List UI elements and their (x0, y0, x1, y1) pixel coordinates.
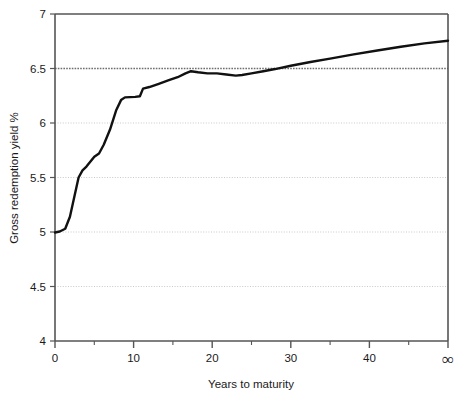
yield-curve-chart: 010203040∞ 44.555.566.57 Years to maturi… (0, 0, 469, 411)
x-tick-label-30: 30 (284, 352, 297, 364)
x-tick-label-0: 0 (52, 352, 58, 364)
y-tick-label-5.5: 5.5 (30, 172, 46, 184)
x-tick-label-20: 20 (206, 352, 219, 364)
y-tick-label-6: 6 (40, 117, 46, 129)
y-tick-label-4.5: 4.5 (30, 281, 46, 293)
chart-background (0, 0, 469, 411)
x-axis-title: Years to maturity (208, 378, 294, 390)
chart-container: 010203040∞ 44.555.566.57 Years to maturi… (0, 0, 469, 411)
y-tick-label-6.5: 6.5 (30, 63, 46, 75)
y-tick-label-7: 7 (40, 8, 46, 20)
x-tick-label-40: 40 (363, 352, 376, 364)
x-tick-label-10: 10 (127, 352, 140, 364)
x-tick-label-infinity: ∞ (442, 350, 454, 369)
y-tick-label-4: 4 (40, 335, 47, 347)
y-tick-label-5: 5 (40, 226, 46, 238)
y-axis-title: Gross redemption yield % (8, 112, 20, 244)
